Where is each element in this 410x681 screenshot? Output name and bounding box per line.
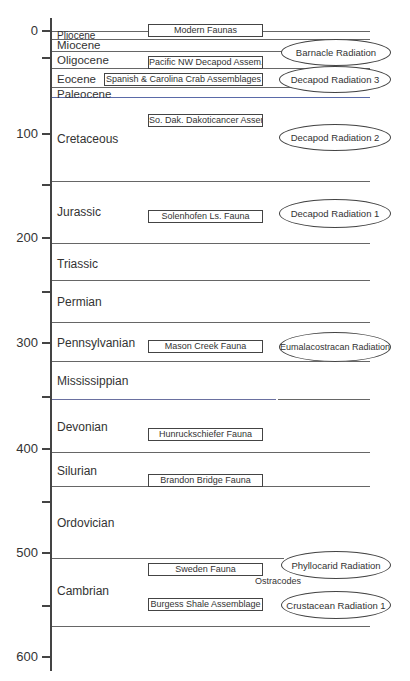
boundary-line-jurassic-triassic [52,243,370,244]
period-label-eocene: Eocene [57,73,96,85]
boundary-line-devonian-silurian [52,452,370,453]
boundary-line-ordovician-cambrian [52,558,284,559]
axis-tick [42,396,51,398]
fauna-box-modern: Modern Faunas [148,24,263,37]
axis-tick [42,237,51,239]
boundary-line-cretaceous-jurassic [52,181,370,182]
y-axis-line [50,18,52,671]
radiation-ellipse-eumalacostracan: Eumalacostracan Radiation [279,332,391,362]
period-label-paleocene: Paleocene [57,88,111,100]
axis-tick [42,605,51,607]
axis-tick-label: 500 [4,546,38,560]
fauna-box-solenhofen: Solenhofen Ls. Fauna [148,210,263,223]
boundary-line-permian-pennsylvanian [52,322,370,323]
fauna-box-so-dak-dakoticancer: So. Dak. Dakoticancer Assem. [148,114,263,127]
boundary-line-mississippian-devonian-left [52,399,276,400]
period-label-mississippian: Mississippian [57,374,128,388]
radiation-ellipse-barnacle: Barnacle Radiation [281,39,391,66]
geologic-timeline-diagram: 0 100 200 300 400 500 600 Pliocene Mioce… [0,0,410,681]
axis-tick [42,342,51,344]
axis-tick-label: 300 [4,336,38,350]
axis-tick [42,448,51,450]
axis-tick [42,133,51,135]
fauna-box-spanish-carolina: Spanish & Carolina Crab Assemblages [104,73,263,86]
period-label-oligocene: Oligocene [57,54,109,66]
axis-tick [42,57,51,59]
axis-tick [42,501,51,503]
axis-tick [42,30,51,32]
radiation-ellipse-crustacean-1: Crustacean Radiation 1 [281,591,391,619]
axis-tick [42,184,51,186]
boundary-line-miocene-oligocene [52,51,282,52]
period-label-permian: Permian [57,295,102,309]
axis-tick [42,656,51,658]
axis-tick-label: 200 [4,231,38,245]
period-label-ordovician: Ordovician [57,516,114,530]
period-label-jurassic: Jurassic [57,205,101,219]
period-label-triassic: Triassic [57,257,98,271]
axis-tick [42,552,51,554]
radiation-ellipse-decapod-2: Decapod Radiation 2 [279,124,391,151]
fauna-box-hunruckschiefer: Hunruckschiefer Fauna [148,428,263,441]
fauna-box-burgess-shale: Burgess Shale Assemblage [148,598,263,611]
axis-tick-label: 600 [4,650,38,664]
fauna-box-sweden: Sweden Fauna [148,563,263,576]
period-label-cretaceous: Cretaceous [57,132,118,146]
boundary-line-zero-right [262,31,370,32]
radiation-ellipse-decapod-3: Decapod Radiation 3 [279,66,391,93]
fauna-box-brandon-bridge: Brandon Bridge Fauna [148,474,263,487]
boundary-line-cambrian-end [52,626,370,627]
axis-tick-label: 0 [4,24,38,38]
axis-tick-label: 400 [4,442,38,456]
period-label-devonian: Devonian [57,420,108,434]
axis-tick-label: 100 [4,127,38,141]
boundary-line-mississippian-devonian-right [278,399,370,400]
boundary-line-triassic-permian [52,280,370,281]
period-label-miocene: Miocene [57,39,100,51]
period-label-cambrian: Cambrian [57,584,109,598]
period-label-pennsylvanian: Pennsylvanian [57,336,135,350]
radiation-ellipse-decapod-1: Decapod Radiation 1 [279,199,391,228]
fauna-box-pacific-nw: Pacific NW Decapod Assem. [148,56,263,69]
fauna-box-mason-creek: Mason Creek Fauna [148,340,263,353]
radiation-ellipse-phyllocarid: Phyllocarid Radiation [281,551,391,579]
period-label-silurian: Silurian [57,464,97,478]
axis-tick [42,291,51,293]
ostracodes-note: Ostracodes [255,576,301,586]
